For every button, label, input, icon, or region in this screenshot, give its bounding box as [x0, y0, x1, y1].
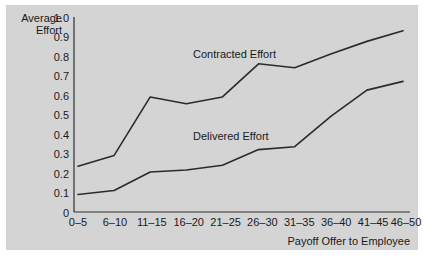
y-tick-label: 0.8 [54, 51, 69, 63]
chart-figure: Average Effort 1.0 0.9 0.8 0.7 0.6 0.5 0… [0, 0, 424, 259]
y-tick-label: 0.9 [54, 31, 69, 43]
x-tick-label: 36–40 [321, 216, 352, 228]
line-chart: Average Effort 1.0 0.9 0.8 0.7 0.6 0.5 0… [0, 0, 424, 259]
x-tick-label: 16–20 [173, 216, 204, 228]
x-tick-label: 6–10 [103, 216, 127, 228]
x-tick-label: 41–45 [358, 216, 389, 228]
series-annotation-contracted-effort: Contracted Effort [193, 48, 276, 60]
y-tick-label: 0.1 [54, 187, 69, 199]
x-axis-title: Payoff Offer to Employee [288, 235, 411, 247]
x-tick-label: 11–15 [137, 216, 167, 228]
y-tick-label: 0.5 [54, 109, 69, 121]
y-tick-label: 0.7 [54, 70, 69, 82]
series-annotation-delivered-effort: Delivered Effort [193, 130, 269, 142]
y-tick-label: 0.2 [54, 168, 69, 180]
x-tick-label: 26–30 [247, 216, 278, 228]
x-tick-label: 21–25 [210, 216, 241, 228]
y-tick-label: 0.6 [54, 90, 69, 102]
y-tick-label: 1.0 [54, 12, 69, 24]
y-tick-label: 0.4 [54, 129, 69, 141]
x-tick-label: 0–5 [69, 216, 87, 228]
y-tick-label: 0.3 [54, 148, 69, 160]
x-tick-label: 31–35 [284, 216, 315, 228]
x-tick-label: 46–50 [391, 216, 422, 228]
